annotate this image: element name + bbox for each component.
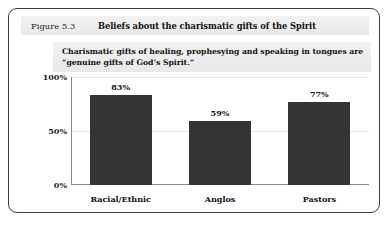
category-label-anglos: Anglos [205, 194, 236, 204]
y-axis-tick-0: 0% [29, 180, 67, 190]
category-label-racial-ethnic: Racial/Ethnic [90, 194, 150, 204]
bar-slot-racial-ethnic: 83% [71, 77, 170, 185]
y-axis: 100% 50% 0% [25, 77, 67, 185]
y-axis-tick-100: 100% [29, 72, 67, 82]
figure-subtitle-box: Charismatic gifts of healing, prophesyin… [53, 42, 371, 72]
bar-slot-anglos: 59% [170, 77, 269, 185]
category-slot-anglos: Anglos [170, 187, 269, 206]
bar-chart: 100% 50% 0% 83% 59% [25, 77, 369, 203]
bar-racial-ethnic: 83% [90, 95, 152, 185]
subtitle-line-1: Charismatic gifts of healing, prophesyin… [62, 46, 362, 57]
category-label-pastors: Pastors [303, 194, 336, 204]
x-axis-category-labels: Racial/Ethnic Anglos Pastors [71, 187, 369, 206]
bar-value-pastors: 77% [310, 89, 329, 99]
plot-region: 83% 59% 77% [71, 77, 369, 185]
figure-header-band: Figure 5.3 Beliefs about the charismatic… [21, 16, 369, 35]
bars-layer: 83% 59% 77% [71, 77, 369, 185]
subtitle-line-2: “genuine gifts of God’s Spirit.” [62, 57, 362, 68]
category-slot-racial-ethnic: Racial/Ethnic [71, 187, 170, 206]
bar-slot-pastors: 77% [270, 77, 369, 185]
bar-value-racial-ethnic: 83% [111, 82, 130, 92]
bar-value-anglos: 59% [211, 108, 230, 118]
bar-anglos: 59% [189, 121, 251, 185]
y-axis-tick-50: 50% [29, 126, 67, 136]
category-slot-pastors: Pastors [270, 187, 369, 206]
figure-title: Beliefs about the charismatic gifts of t… [21, 21, 369, 31]
bar-pastors: 77% [288, 102, 350, 185]
figure-frame: Figure 5.3 Beliefs about the charismatic… [8, 8, 380, 213]
